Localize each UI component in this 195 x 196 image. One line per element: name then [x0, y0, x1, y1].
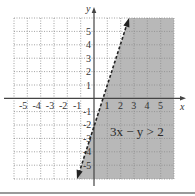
x-axis-arrow-icon — [180, 96, 186, 101]
bottom-divider — [0, 192, 195, 194]
svg-text:-3: -3 — [83, 133, 91, 144]
x-axis-label: x — [179, 101, 185, 112]
svg-text:4: 4 — [145, 100, 150, 111]
svg-text:-3: -3 — [46, 100, 54, 111]
svg-text:-1: -1 — [83, 106, 91, 117]
svg-text:-2: -2 — [83, 119, 91, 130]
svg-text:-4: -4 — [33, 100, 41, 111]
svg-text:5: 5 — [158, 100, 163, 111]
svg-text:2: 2 — [118, 100, 123, 111]
y-axis-label: y — [85, 3, 91, 14]
inequality-graph: y x -5 -4 -3 -2 -1 1 2 3 4 5 5 4 3 2 1 -… — [0, 0, 195, 196]
svg-text:4: 4 — [86, 39, 91, 50]
svg-text:1: 1 — [105, 100, 110, 111]
line-arrow-top-icon — [123, 18, 129, 27]
y-axis-arrow-icon — [92, 7, 97, 13]
svg-text:-5: -5 — [19, 100, 27, 111]
svg-text:3: 3 — [131, 100, 136, 111]
svg-text:-2: -2 — [59, 100, 67, 111]
svg-text:-5: -5 — [83, 160, 91, 171]
svg-text:2: 2 — [86, 66, 91, 77]
inequality-annotation: 3x − y > 2 — [110, 124, 164, 139]
svg-text:-1: -1 — [73, 100, 81, 111]
svg-text:-4: -4 — [83, 146, 91, 157]
svg-text:3: 3 — [86, 53, 91, 64]
svg-text:1: 1 — [86, 80, 91, 91]
svg-text:5: 5 — [86, 26, 91, 37]
